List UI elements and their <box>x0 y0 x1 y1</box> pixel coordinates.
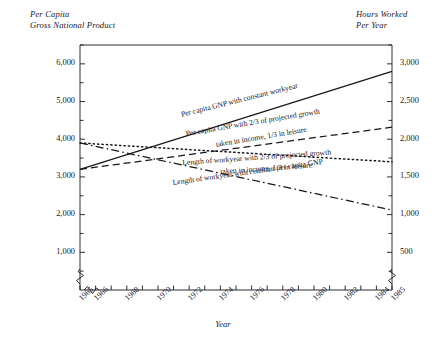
y-tick-label-right: 3,000 <box>400 58 446 67</box>
x-tick-label: 1970 <box>155 285 173 303</box>
x-tick-label: 1982 <box>342 285 360 303</box>
y-tick-label-left: 6,000 <box>28 58 75 67</box>
x-tick-label: 1976 <box>248 285 266 303</box>
y-tick-label-left: 3,000 <box>28 171 75 180</box>
x-tick-label: 1968 <box>123 285 141 303</box>
y-tick-label-right: 2,500 <box>400 96 446 105</box>
chart-figure: Per Capita Gross National Product Hours … <box>0 0 446 341</box>
y-tick-label-left: 5,000 <box>28 96 75 105</box>
y-tick-label-right: 500 <box>400 247 446 256</box>
y-tick-label-left: 2,000 <box>28 209 75 218</box>
x-tick-label: 1985 <box>389 285 407 303</box>
x-tick-label: 1965 <box>77 285 95 303</box>
x-tick-label: 1966 <box>92 285 110 303</box>
x-tick-label: 1978 <box>279 285 297 303</box>
x-tick-label: 1974 <box>217 285 235 303</box>
x-tick-label: 1980 <box>311 285 329 303</box>
x-tick-label: 1972 <box>186 285 204 303</box>
y-tick-label-left: 4,000 <box>28 134 75 143</box>
y-tick-label-left: 1,000 <box>28 247 75 256</box>
y-tick-label-right: 2,000 <box>400 134 446 143</box>
x-tick-label: 1984 <box>373 285 391 303</box>
y-tick-label-right: 1,500 <box>400 171 446 180</box>
y-tick-label-right: 1,000 <box>400 209 446 218</box>
labels-layer: 6,0005,0004,0003,0002,0001,0003,0002,500… <box>0 0 446 341</box>
